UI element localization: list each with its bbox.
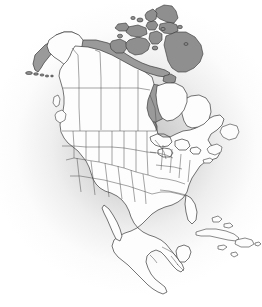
island-bathurst [146, 21, 158, 30]
island-axel-heiberg [145, 9, 157, 22]
island-cuba [196, 229, 239, 241]
continental-landmass [47, 32, 239, 294]
island-lesser-antilles [231, 252, 238, 257]
island-bahamas-2 [224, 223, 233, 228]
island-newfoundland [220, 124, 239, 140]
island-victoria [126, 37, 150, 55]
island-bahamas-1 [212, 216, 222, 222]
map-vector-canvas [0, 0, 262, 307]
region-florida [185, 195, 197, 224]
island-baffin [164, 32, 203, 72]
north-america-map-figure: North America political outline map [0, 0, 262, 307]
island-puerto-rico [255, 242, 261, 246]
island-prince-of-wales [149, 31, 162, 44]
island-haida-gwaii [53, 95, 60, 107]
region-baja-california [102, 205, 122, 241]
landmass-north-america-mainland [59, 46, 224, 294]
island-prince-patrick [115, 23, 129, 31]
island-jamaica [218, 245, 227, 250]
region-aleutian-islands [26, 72, 54, 78]
island-southampton [163, 74, 176, 84]
island-hispaniola [235, 238, 254, 247]
island-ellesmere [155, 5, 178, 23]
caribbean-islands [196, 216, 261, 257]
region-yucatan [176, 245, 191, 262]
